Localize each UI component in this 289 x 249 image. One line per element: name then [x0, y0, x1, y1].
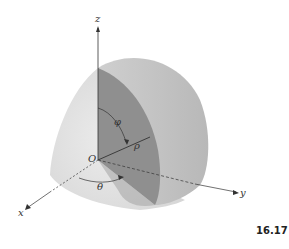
- spherical-coordinates-figure: z x y O φ ρ θ 16.17: [0, 0, 289, 249]
- theta-label: θ: [97, 182, 103, 192]
- diagram-canvas: [0, 0, 289, 249]
- x-axis-arrowhead: [25, 204, 31, 210]
- figure-number: 16.17: [256, 226, 288, 236]
- y-axis-label: y: [240, 188, 246, 198]
- z-axis-arrowhead: [96, 26, 100, 32]
- z-axis-label: z: [95, 14, 100, 24]
- phi-label: φ: [114, 117, 121, 127]
- y-axis-arrowhead: [233, 190, 239, 195]
- x-axis-label: x: [18, 208, 24, 218]
- origin-label: O: [88, 154, 96, 164]
- rho-label: ρ: [134, 141, 140, 151]
